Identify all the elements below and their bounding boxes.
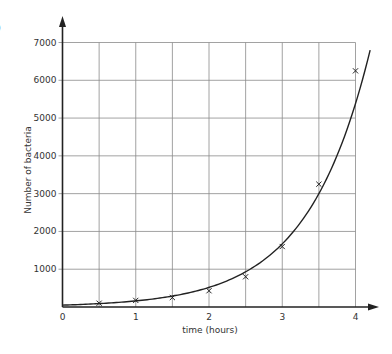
y-tick-label: 2000 bbox=[34, 226, 57, 236]
x-tick-labels: 01234 bbox=[60, 312, 359, 322]
y-tick-labels: 1000200030004000500060007000 bbox=[34, 38, 57, 275]
y-axis-label: Number of bacteria bbox=[23, 126, 33, 214]
x-axis-label: time (hours) bbox=[182, 325, 238, 335]
y-tick-label: 5000 bbox=[34, 113, 57, 123]
grid bbox=[59, 43, 356, 308]
growth-curve bbox=[63, 50, 371, 305]
y-tick-label: 7000 bbox=[34, 38, 57, 48]
bacteria-growth-chart: ) 1000200030004000500060007000 01234 tim… bbox=[0, 0, 392, 354]
x-tick-label: 3 bbox=[279, 312, 285, 322]
x-tick-label: 0 bbox=[60, 312, 66, 322]
y-axis-arrow-icon bbox=[59, 16, 66, 27]
x-tick-label: 1 bbox=[133, 312, 139, 322]
y-tick-label: 6000 bbox=[34, 75, 57, 85]
y-tick-label: 3000 bbox=[34, 189, 57, 199]
part-label: ) bbox=[0, 22, 1, 33]
x-axis-arrow-icon bbox=[368, 304, 379, 311]
y-tick-label: 4000 bbox=[34, 151, 57, 161]
y-tick-label: 1000 bbox=[34, 264, 57, 274]
axes bbox=[59, 16, 379, 311]
x-tick-label: 2 bbox=[206, 312, 212, 322]
x-tick-label: 4 bbox=[353, 312, 359, 322]
